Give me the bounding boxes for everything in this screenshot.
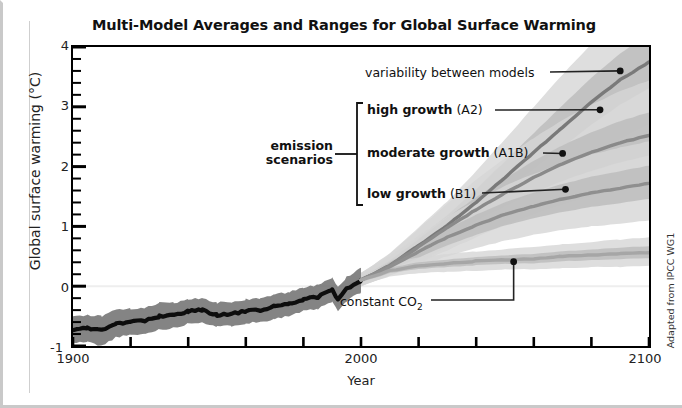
y-tick-label-1: 1 <box>39 219 69 234</box>
x-tick-label-2000: 2000 <box>331 351 391 366</box>
callout-constant-co2-text: constant CO <box>340 294 417 309</box>
callout-low-growth-bold: low growth <box>367 186 446 201</box>
y-tick-label-2: 2 <box>39 159 69 174</box>
callout-moderate-growth: moderate growth (A1B) <box>367 145 528 160</box>
callout-moderate-growth-code: (A1B) <box>490 145 529 160</box>
y-tick-label-4: 4 <box>39 38 69 53</box>
emission-scenarios-line1: emission <box>271 138 333 153</box>
x-axis-label: Year <box>71 373 651 388</box>
emission-scenarios-line2: scenarios <box>266 152 333 167</box>
callout-high-growth-bold: high growth <box>367 102 453 117</box>
y-tick-label-0: 0 <box>39 280 69 295</box>
callout-variability-text: variability between models <box>365 65 534 80</box>
callout-constant-co2: constant CO2 <box>340 294 423 312</box>
callout-moderate-growth-bold: moderate growth <box>367 145 490 160</box>
source-credit: Adapted from IPCC WG1 <box>665 221 676 361</box>
emission-scenarios-group-label: emission scenarios <box>248 139 333 168</box>
callout-low-growth: low growth (B1) <box>367 186 476 201</box>
chart-title: Multi-Model Averages and Ranges for Glob… <box>3 17 682 33</box>
y-tick-label-3: 3 <box>39 98 69 113</box>
callout-constant-co2-subscript: 2 <box>417 302 423 312</box>
x-tick-label-2100: 2100 <box>615 351 675 366</box>
callout-variability: variability between models <box>365 65 534 80</box>
callout-low-growth-code: (B1) <box>446 186 476 201</box>
x-tick-label-1900: 1900 <box>43 351 103 366</box>
callout-high-growth: high growth (A2) <box>367 102 483 117</box>
callout-high-growth-code: (A2) <box>453 102 483 117</box>
figure-frame: Multi-Model Averages and Ranges for Glob… <box>0 0 682 408</box>
